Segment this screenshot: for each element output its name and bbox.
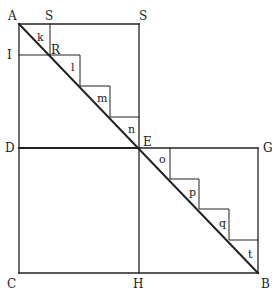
label-o: o <box>159 153 166 166</box>
label-S1: S <box>45 9 53 23</box>
label-D: D <box>5 141 15 155</box>
label-p: p <box>189 186 196 199</box>
label-m: m <box>97 92 108 105</box>
label-E: E <box>143 135 152 149</box>
label-G: G <box>263 141 273 155</box>
label-q: q <box>219 217 226 230</box>
label-H: H <box>133 277 143 291</box>
geometry-diagram: A S S I R D E G C H B k l m n o p q t <box>0 0 279 298</box>
label-B: B <box>261 277 270 291</box>
label-C: C <box>7 277 16 291</box>
label-n: n <box>128 123 135 136</box>
label-R: R <box>51 43 61 57</box>
label-S2: S <box>139 9 147 23</box>
label-A: A <box>7 9 17 23</box>
label-t: t <box>248 248 253 261</box>
label-I: I <box>7 48 12 62</box>
label-k: k <box>37 31 44 44</box>
label-l: l <box>71 61 75 74</box>
